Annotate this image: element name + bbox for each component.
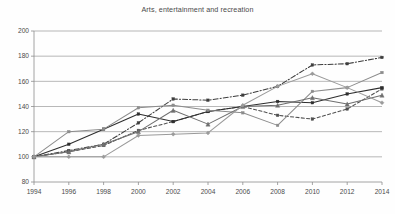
series-4-marker-1996 <box>68 130 71 133</box>
series-6-line <box>34 74 382 157</box>
series-4-marker-1998 <box>102 128 105 131</box>
ytick-label-200: 200 <box>18 27 29 34</box>
series-1-line <box>34 57 382 156</box>
series-3-marker-2000 <box>137 113 140 116</box>
series-1-marker-2014 <box>381 56 384 59</box>
ytick-label-80: 80 <box>22 178 30 185</box>
series-1-marker-2012 <box>346 62 349 65</box>
series-2-marker-2012 <box>346 108 349 111</box>
series-2-marker-2008 <box>276 114 279 117</box>
xtick-label-2012: 2012 <box>340 188 355 195</box>
series-3-marker-2002 <box>172 120 175 123</box>
xtick-label-2008: 2008 <box>270 188 285 195</box>
series-4-marker-2008 <box>276 124 279 127</box>
series-4-marker-2006 <box>242 111 245 114</box>
xtick-label-2000: 2000 <box>131 188 146 195</box>
series-3-marker-2014 <box>381 86 384 89</box>
xtick-label-2010: 2010 <box>305 188 320 195</box>
ytick-label-140: 140 <box>18 103 29 110</box>
series-3-marker-1996 <box>68 143 71 146</box>
series-1-marker-2002 <box>172 98 175 101</box>
xtick-label-2014: 2014 <box>375 188 390 195</box>
xtick-label-1994: 1994 <box>27 188 42 195</box>
series-4-line <box>34 73 382 157</box>
series-4-marker-2014 <box>381 71 384 74</box>
series-5-marker-2002 <box>171 108 175 112</box>
chart-container: Arts, entertainment and recreation 80100… <box>0 0 395 214</box>
series-4-marker-2004 <box>207 109 210 112</box>
series-1-marker-2000 <box>137 122 140 125</box>
ytick-label-160: 160 <box>18 78 29 85</box>
xtick-label-1996: 1996 <box>61 188 76 195</box>
series-4-marker-2010 <box>311 90 314 93</box>
series-4-marker-2002 <box>172 104 175 107</box>
ytick-label-100: 100 <box>18 153 29 160</box>
series-1-group <box>33 56 384 158</box>
xtick-label-1998: 1998 <box>96 188 111 195</box>
series-4-marker-2000 <box>137 106 140 109</box>
series-3-marker-2008 <box>276 100 279 103</box>
line-chart-plot: 8010012014016018020019941996199820002002… <box>0 0 395 214</box>
series-5-marker-2004 <box>206 122 210 126</box>
series-1-marker-2006 <box>242 94 245 97</box>
xtick-label-2002: 2002 <box>166 188 181 195</box>
series-3-marker-2012 <box>346 93 349 96</box>
series-1-marker-2004 <box>207 99 210 102</box>
series-6-marker-2002 <box>171 132 175 136</box>
series-3-marker-2010 <box>311 101 314 104</box>
series-2-marker-2010 <box>311 118 314 121</box>
ytick-label-120: 120 <box>18 128 29 135</box>
series-6-marker-1996 <box>67 155 71 159</box>
series-6-group <box>32 72 384 159</box>
series-1-marker-2010 <box>311 64 314 67</box>
ytick-label-180: 180 <box>18 52 29 59</box>
series-6-marker-2010 <box>310 72 314 76</box>
series-4-group <box>33 71 384 158</box>
xtick-label-2004: 2004 <box>201 188 216 195</box>
series-6-marker-2014 <box>380 101 384 105</box>
xtick-label-2006: 2006 <box>235 188 250 195</box>
